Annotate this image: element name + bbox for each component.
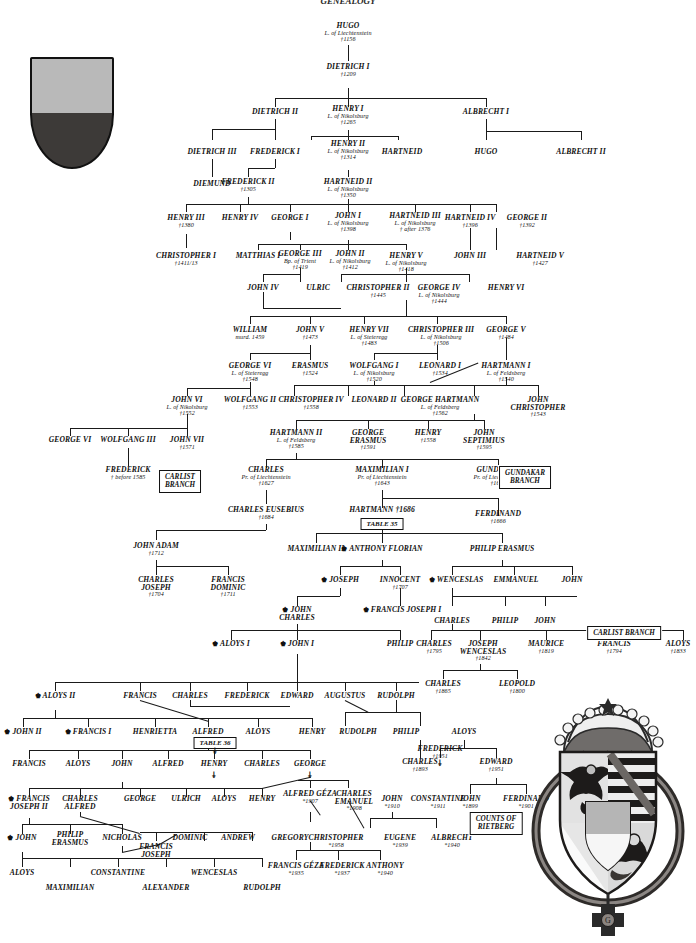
person-node: FRANCIS†1794	[597, 640, 631, 654]
crown-icon: ♚	[429, 576, 435, 583]
person-node: AUGUSTUS	[325, 692, 366, 700]
liechtenstein-shield-icon	[30, 57, 114, 169]
person-node: GEORGE I	[271, 214, 308, 222]
person-node: HUGO	[475, 148, 498, 156]
person-node: ULRICH	[171, 795, 201, 803]
person-node: HENRY VL. of Nikolsburg†1418	[385, 252, 426, 272]
person-node: ♚ ANTHONY FLORIAN	[341, 545, 422, 553]
person-node: WILLIAMmurd. 1459	[233, 326, 267, 340]
person-node: JOHN IL. of Nikolsburg†1398	[327, 212, 368, 232]
person-node: CHARLES EMANUEL*1908	[323, 790, 385, 812]
person-node: JOHN VIL. of Nikolsburg†1552	[166, 396, 207, 416]
table-reference-35[interactable]: TABLE 35	[361, 518, 404, 530]
person-node: LEONARD II	[351, 396, 396, 404]
person-node: GEORGE IVL. of Nikolsburg†1444	[418, 284, 460, 304]
person-node: HENRY	[299, 728, 326, 736]
person-node: ♚ WENCESLAS	[429, 576, 483, 584]
person-node: JOHN ADAM†1712	[133, 542, 179, 556]
person-node: ALOYS	[452, 728, 477, 736]
person-node: ALOYS	[246, 728, 271, 736]
page-title: GENEALOGY	[320, 0, 375, 6]
person-node: FRANCIS GÉZA*1935	[265, 862, 327, 876]
person-node: ♚ ALOYS II	[35, 692, 76, 700]
person-node: CHARLES JOSEPH†1704	[125, 576, 187, 598]
crown-icon: ♚	[280, 640, 286, 647]
person-node: DIETRICH III	[187, 148, 236, 156]
person-node: EUGENE*1939	[384, 834, 416, 848]
person-node: PHILIP	[387, 640, 413, 648]
person-node: FERDINAND†1666	[475, 510, 521, 524]
person-node: JOHN VII†1571	[170, 436, 204, 450]
continuation-arrow-icon: ↡	[436, 760, 444, 766]
person-node: ♚ JOHN CHARLES	[266, 606, 328, 621]
person-node: EDWARD†1951	[480, 758, 513, 772]
person-node: JOHN	[534, 617, 555, 625]
person-node: HENRY IIL. of Nikolsburg†1314	[327, 140, 368, 160]
person-node: INNOCENT†1707	[380, 576, 420, 590]
person-node: ALEXANDER	[143, 884, 190, 892]
person-node: MATTHIAS I	[236, 252, 281, 260]
crown-icon: ♚	[35, 692, 41, 699]
person-node: JOHN V†1473	[296, 326, 324, 340]
continuation-arrow-icon: ↡	[306, 772, 314, 778]
branch-label-carlist-1[interactable]: CARLISTBRANCH	[159, 470, 201, 493]
person-node: ♚ JOSEPH	[321, 576, 359, 584]
person-node: HARTMANN IIL. of Feldsberg†1585	[270, 429, 322, 449]
person-node: CHRISTOPHER I†1411/13	[156, 252, 216, 266]
person-node: MAXIMILIAN	[46, 884, 95, 892]
person-node: DIETRICH II	[252, 108, 298, 116]
person-node: PHILIP ERASMUS	[470, 545, 535, 553]
crown-icon: ♚	[65, 728, 71, 735]
person-node: MAXIMILIAN II	[288, 545, 345, 553]
crown-icon: ♚	[341, 545, 347, 552]
person-node: FREDERICK†1951	[418, 745, 463, 759]
person-node: EDWARD	[281, 692, 314, 700]
person-node: CHARLES†1865	[425, 680, 461, 694]
person-node: CHRISTOPHER IIIL. of Nikolsburg†1506	[408, 326, 474, 346]
princely-arms-of-liechtenstein: G	[524, 694, 692, 939]
person-node: ULRIC	[306, 284, 330, 292]
person-node: ♚ JOHN	[7, 834, 36, 842]
person-node: GEORGE II†1392	[507, 214, 547, 228]
person-node: CHRISTOPHER IV†1558	[278, 396, 343, 410]
person-node: ♚ JOHN II	[4, 728, 41, 736]
person-node: RUDOLPH	[377, 692, 414, 700]
person-node: FRANCIS JOSEPH	[125, 843, 187, 858]
person-node: JOHN	[111, 760, 132, 768]
person-node: ♚ FRANCIS JOSEPH I	[363, 606, 442, 614]
person-node: CHARLES ALFRED	[49, 795, 111, 810]
person-node: ALOYS	[212, 795, 237, 803]
person-node: FRANCIS DOMINIC†1711	[197, 576, 259, 598]
person-node: HARTNEID V†1427	[516, 252, 564, 266]
person-node: NICHOLAS	[102, 834, 142, 842]
person-node: ERASMUS†1524	[292, 362, 329, 376]
person-node: PHILIP ERASMUS	[39, 831, 101, 846]
person-node: HENRIETTA	[133, 728, 177, 736]
person-node: ALFRED	[193, 728, 224, 736]
person-node: RUDOLPH	[243, 884, 280, 892]
person-node: HENRY VI	[488, 284, 524, 292]
person-node: FREDERICK II†1305	[222, 178, 275, 192]
person-node: GEORGE HARTMANNL. of Feldsberg†1562	[401, 396, 480, 416]
person-node: ALOYS†1833	[666, 640, 691, 654]
person-node: GEORGE	[124, 795, 156, 803]
person-node: HENRY III†1380	[167, 214, 204, 228]
person-node: LEONARD I†1534	[419, 362, 461, 376]
person-node: LEOPOLD†1800	[499, 680, 535, 694]
branch-label-counts-of-rietberg[interactable]: COUNTS OFRIETBERG	[470, 812, 523, 835]
branch-label-carlist-2[interactable]: CARLIST BRANCH	[587, 626, 661, 640]
person-node: GEORGE VI	[49, 436, 91, 444]
person-node: HENRY IL. of Nikolsburg†1265	[327, 105, 368, 125]
person-node: FREDERICK*1937	[320, 862, 365, 876]
person-node: FRANCIS	[123, 692, 157, 700]
person-node: CHRISTOPHER*1958	[309, 834, 364, 848]
person-node: FREDERICK	[225, 692, 270, 700]
person-node: HARTNEID	[382, 148, 422, 156]
person-node: JOHN IIL. of Nikolsburg†1412	[329, 250, 370, 270]
person-node: CHARLES†1893	[402, 758, 438, 772]
person-node: ♚ ALOYS I	[212, 640, 249, 648]
crown-icon: ♚	[7, 834, 13, 841]
continuation-arrow-icon: ↡	[210, 772, 218, 778]
person-node: MAXIMILIAN IPr. of Liechtenstein†1643	[355, 466, 409, 486]
branch-label-gundakar[interactable]: GUNDAKARBRANCH	[499, 466, 551, 489]
